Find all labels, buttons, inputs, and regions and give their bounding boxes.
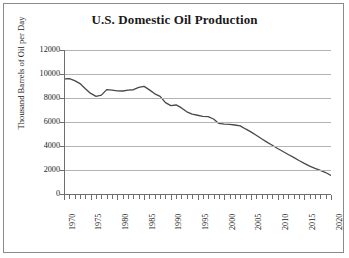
x-tick-label: 2020 (335, 214, 344, 230)
x-tick (165, 195, 166, 199)
x-tick-label: 1970 (68, 214, 77, 230)
x-tick-label: 2010 (281, 214, 290, 230)
x-tick (192, 195, 193, 199)
x-tick (117, 195, 118, 200)
x-tick (251, 195, 252, 200)
x-tick (149, 195, 150, 199)
x-tick-label: 1990 (174, 214, 183, 230)
gridline (64, 50, 331, 51)
x-tick (246, 195, 247, 199)
plot-area (64, 50, 331, 194)
gridline (64, 170, 331, 171)
x-tick (219, 195, 220, 199)
y-tick-label: 8000 (26, 93, 60, 102)
x-tick (80, 195, 81, 199)
x-tick (310, 195, 311, 199)
gridline (64, 74, 331, 75)
x-tick (224, 195, 225, 200)
x-axis-ticks (64, 195, 332, 201)
y-tick-label: 2000 (26, 165, 60, 174)
x-tick (101, 195, 102, 199)
x-tick (187, 195, 188, 199)
x-tick (176, 195, 177, 199)
y-tick-label: 12000 (26, 45, 60, 54)
gridline (64, 98, 331, 99)
x-tick-label: 2015 (308, 214, 317, 230)
x-tick (278, 195, 279, 200)
x-tick (198, 195, 199, 200)
y-axis-line (64, 50, 65, 195)
x-tick (75, 195, 76, 199)
x-tick (326, 195, 327, 199)
gridline (64, 122, 331, 123)
x-tick (267, 195, 268, 199)
x-tick (133, 195, 134, 199)
x-tick (288, 195, 289, 199)
x-tick (294, 195, 295, 199)
x-tick (230, 195, 231, 199)
x-tick (171, 195, 172, 200)
x-tick (262, 195, 263, 199)
y-tick-label: 0 (26, 189, 60, 198)
chart-frame: U.S. Domestic Oil Production Thousand Ba… (3, 3, 344, 253)
x-tick (91, 195, 92, 200)
x-tick (144, 195, 145, 200)
x-tick-label: 1980 (121, 214, 130, 230)
x-tick (203, 195, 204, 199)
x-tick (304, 195, 305, 200)
y-tick-label: 6000 (26, 117, 60, 126)
x-tick (315, 195, 316, 199)
x-tick (160, 195, 161, 199)
x-tick (128, 195, 129, 199)
x-tick-label: 2005 (254, 214, 263, 230)
x-tick-label: 2000 (228, 214, 237, 230)
x-tick (64, 195, 65, 200)
x-tick (181, 195, 182, 199)
x-tick (69, 195, 70, 199)
x-tick (299, 195, 300, 199)
x-tick (85, 195, 86, 199)
x-tick (272, 195, 273, 199)
x-tick (331, 195, 332, 200)
y-tick-label: 10000 (26, 69, 60, 78)
x-tick (155, 195, 156, 199)
x-tick (283, 195, 284, 199)
x-tick (107, 195, 108, 199)
x-tick-label: 1975 (94, 214, 103, 230)
x-tick-label: 1995 (201, 214, 210, 230)
x-tick (123, 195, 124, 199)
y-axis-tick-labels: 020004000600080001000012000 (24, 50, 60, 196)
x-axis-tick-labels: 1970197519801985199019952000200520102015… (64, 202, 332, 254)
y-tick-label: 4000 (26, 141, 60, 150)
x-tick (208, 195, 209, 199)
x-tick (320, 195, 321, 199)
x-tick (214, 195, 215, 199)
x-tick-label: 1985 (148, 214, 157, 230)
x-tick (96, 195, 97, 199)
x-tick (256, 195, 257, 199)
gridline (64, 146, 331, 147)
x-tick (235, 195, 236, 199)
x-tick (240, 195, 241, 199)
chart-title: U.S. Domestic Oil Production (4, 12, 345, 28)
x-tick (139, 195, 140, 199)
x-tick (112, 195, 113, 199)
